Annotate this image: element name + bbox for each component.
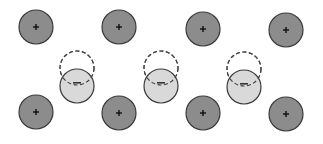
negative-cloud [60, 69, 94, 103]
plus-sign-v [285, 27, 286, 33]
plus-sign-v [202, 26, 203, 32]
minus-sign [73, 82, 81, 84]
plus-sign-v [118, 110, 119, 116]
negative-cloud [144, 69, 178, 103]
plus-sign-v [202, 110, 203, 116]
plus-sign-v [118, 24, 119, 30]
minus-sign [240, 83, 248, 85]
plus-sign-v [35, 109, 36, 115]
minus-sign [157, 82, 165, 84]
diagram-canvas [0, 0, 323, 144]
plus-sign-v [285, 111, 286, 117]
negative-cloud [227, 70, 261, 104]
plus-sign-v [35, 24, 36, 30]
polarization-diagram [0, 0, 323, 144]
